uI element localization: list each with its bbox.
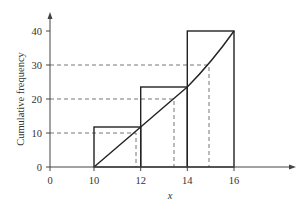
- bar-14-16: [187, 31, 234, 167]
- y-ticks: [46, 31, 50, 167]
- x-axis-arrow-icon: [289, 165, 296, 170]
- y-tick-label-0: 0: [37, 162, 42, 173]
- reference-line-10: [50, 133, 136, 167]
- cumulative-frequency-chart: 0 10 20 30 40 0 10 12 14 16 x Cumulative…: [0, 0, 308, 206]
- y-tick-label-40: 40: [32, 26, 43, 37]
- reference-line-30: [50, 65, 209, 167]
- y-tick-label-10: 10: [32, 128, 43, 139]
- reference-lines: [50, 65, 209, 167]
- x-tick-label-14: 14: [182, 175, 193, 186]
- axes: [50, 16, 292, 167]
- y-tick-label-20: 20: [32, 94, 43, 105]
- x-axis-label: x: [167, 190, 173, 201]
- x-tick-label-0: 0: [47, 175, 52, 186]
- x-tick-label-10: 10: [89, 175, 100, 186]
- x-tick-label-12: 12: [135, 175, 146, 186]
- y-axis-label: Cumulative frequency: [15, 51, 26, 145]
- y-axis-arrow-icon: [48, 12, 53, 19]
- y-tick-label-30: 30: [32, 60, 43, 71]
- reference-line-20: [50, 99, 174, 167]
- x-tick-label-16: 16: [229, 175, 240, 186]
